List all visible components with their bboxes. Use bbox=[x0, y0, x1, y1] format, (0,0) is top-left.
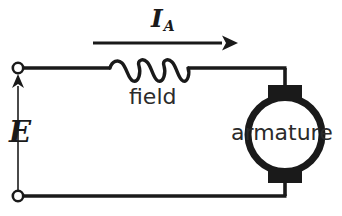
circuit-diagram: IA E field armature bbox=[0, 0, 342, 216]
terminal-node-top bbox=[13, 63, 23, 73]
circuit-schematic-canvas bbox=[0, 0, 342, 216]
field-inductor-symbol bbox=[110, 60, 189, 81]
current-arrow bbox=[93, 36, 238, 51]
emf-arrow bbox=[12, 74, 24, 193]
armature-brush-top bbox=[268, 85, 302, 98]
current-arrow-head bbox=[222, 36, 238, 51]
terminal-node-bottom bbox=[13, 191, 23, 201]
inductor-coil-path bbox=[110, 60, 189, 81]
armature-symbol bbox=[248, 85, 322, 183]
armature-circle bbox=[248, 98, 322, 172]
emf-arrow-head bbox=[12, 74, 24, 88]
